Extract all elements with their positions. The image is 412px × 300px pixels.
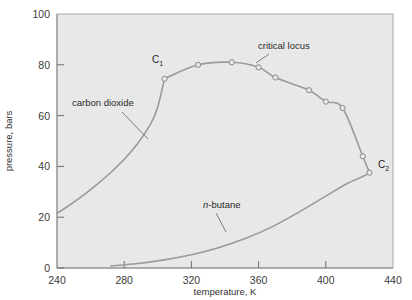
point-label-c2-base: C [378,159,385,170]
x-tick-label: 320 [183,274,201,286]
y-axis-title: pressure, bars [3,110,14,171]
pressure-temperature-chart: 020406080100 240280320360400440 carbon d… [0,0,412,300]
chart-container: 020406080100 240280320360400440 carbon d… [0,0,412,300]
x-tick-label: 240 [48,274,66,286]
y-tick-label: 60 [38,110,50,122]
annotation-n-butane: n-butane [203,199,241,210]
point-label-c1-subscript: 1 [159,60,163,67]
x-tick-label: 280 [115,274,133,286]
y-tick-label: 0 [44,262,50,274]
data-point-marker [323,99,328,104]
data-point-marker [229,60,234,65]
y-tick-label: 20 [38,211,50,223]
data-point-marker [273,75,278,80]
point-label-c1-base: C [152,54,159,65]
data-point-marker [162,76,167,81]
x-tick-label: 440 [384,274,402,286]
x-tick-label: 400 [317,274,335,286]
data-point-marker [360,154,365,159]
data-point-marker [340,105,345,110]
annotation-n-butane-suffix: -butane [208,199,240,210]
y-tick-label: 80 [38,59,50,71]
y-tick-label: 40 [38,160,50,172]
y-tick-label: 100 [32,8,50,20]
annotation-carbon-dioxide: carbon dioxide [72,97,134,108]
annotation-critical-locus: critical locus [258,40,310,51]
point-label-c2-subscript: 2 [385,165,389,172]
x-axis-title: temperature, K [194,286,257,297]
data-point-marker [306,88,311,93]
data-point-marker [367,170,372,175]
data-point-marker [196,62,201,67]
data-point-marker [256,65,261,70]
x-tick-label: 360 [250,274,268,286]
